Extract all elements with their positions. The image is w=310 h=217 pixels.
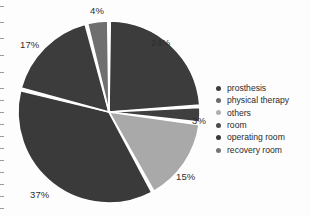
legend-item[interactable]: physical therapy: [216, 94, 310, 106]
legend-swatch-icon: [216, 123, 221, 128]
legend-item-label: physical therapy: [227, 96, 289, 105]
legend-swatch-icon: [216, 135, 221, 140]
legend-item-label: recovery room: [227, 146, 282, 155]
pie-percentage-label: 3%: [192, 116, 206, 126]
legend-item[interactable]: operating room: [216, 132, 310, 144]
pie-percentage-label: 15%: [176, 172, 195, 182]
pie-percentage-label: 17%: [20, 40, 39, 50]
chart-legend: prosthesisphysical therapyothersroomoper…: [216, 82, 310, 156]
pie-slice-group: [18, 21, 200, 203]
legend-item-label: room: [227, 121, 247, 130]
legend-item[interactable]: prosthesis: [216, 82, 310, 94]
legend-swatch-icon: [216, 86, 221, 91]
pie-chart-area: [0, 0, 220, 217]
legend-swatch-icon: [216, 110, 221, 115]
pie-percentage-label: 4%: [90, 6, 104, 16]
legend-item[interactable]: others: [216, 107, 310, 119]
pie-percentage-label: 24%: [151, 38, 170, 48]
legend-item[interactable]: recovery room: [216, 144, 310, 156]
legend-item-label: others: [227, 109, 251, 118]
pie-chart-figure: 24%4%17%37%15%3% prosthesisphysical ther…: [0, 0, 310, 217]
legend-swatch-icon: [216, 148, 221, 153]
legend-item-label: operating room: [227, 133, 285, 142]
legend-swatch-icon: [216, 98, 221, 103]
pie-svg: [0, 0, 220, 217]
legend-item-label: prosthesis: [227, 84, 266, 93]
legend-item[interactable]: room: [216, 119, 310, 131]
pie-slice[interactable]: [109, 21, 200, 112]
pie-percentage-label: 37%: [30, 190, 49, 200]
